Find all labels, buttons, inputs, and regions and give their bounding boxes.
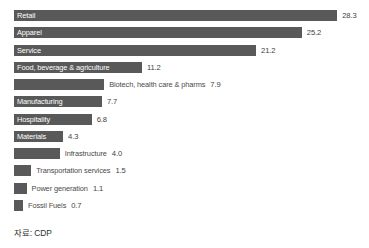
bar-segment: Materials xyxy=(14,131,63,142)
bar-row: Power generation1.1 xyxy=(14,183,103,194)
chart-plot-area: Retail28.3Apparel25.2Service21.2Food, be… xyxy=(0,8,369,215)
bar-segment xyxy=(14,79,104,90)
bar-segment: Retail xyxy=(14,10,337,21)
bar-value-label: 1.5 xyxy=(110,165,125,176)
bar-category-label: Service xyxy=(14,45,41,56)
bar-category-label: Materials xyxy=(14,131,46,142)
bar-segment xyxy=(14,183,27,194)
bar-category-label: Biotech, health care & pharms xyxy=(104,79,205,90)
bar-value-label: 4.0 xyxy=(107,148,122,159)
bar-value-label: 7.7 xyxy=(102,96,117,107)
bar-category-label: Apparel xyxy=(14,27,42,38)
bar-value-label: 7.9 xyxy=(205,79,220,90)
bar-value-label: 28.3 xyxy=(337,10,356,21)
bar-row: Transportation services1.5 xyxy=(14,165,126,176)
bar-category-label: Manufacturing xyxy=(14,96,63,107)
bar-category-label: Hospitality xyxy=(14,114,50,125)
bar-value-label: 4.3 xyxy=(63,131,78,142)
bar-row: Manufacturing7.7 xyxy=(14,96,117,107)
bar-segment xyxy=(14,165,31,176)
bar-chart: Retail28.3Apparel25.2Service21.2Food, be… xyxy=(0,0,369,248)
bar-value-label: 21.2 xyxy=(256,45,275,56)
bar-segment xyxy=(14,200,23,211)
bar-value-label: 6.8 xyxy=(92,114,107,125)
bar-row: Hospitality6.8 xyxy=(14,114,107,125)
bar-row: Fossil Fuels0.7 xyxy=(14,200,82,211)
chart-source-note: 자료: CDP xyxy=(14,226,52,238)
bar-segment: Manufacturing xyxy=(14,96,102,107)
bar-category-label: Food, beverage & agriculture xyxy=(14,62,110,73)
bar-row: Apparel25.2 xyxy=(14,27,321,38)
bar-row: Infrastructure4.0 xyxy=(14,148,122,159)
bar-row: Food, beverage & agriculture11.2 xyxy=(14,62,161,73)
bar-category-label: Retail xyxy=(14,10,35,21)
bar-category-label: Power generation xyxy=(27,183,88,194)
bar-segment xyxy=(14,148,60,159)
bar-row: Service21.2 xyxy=(14,45,275,56)
bar-row: Retail28.3 xyxy=(14,10,357,21)
bar-category-label: Transportation services xyxy=(31,165,110,176)
bar-value-label: 1.1 xyxy=(88,183,103,194)
bar-category-label: Fossil Fuels xyxy=(23,200,66,211)
bar-segment: Apparel xyxy=(14,27,302,38)
bar-segment: Food, beverage & agriculture xyxy=(14,62,142,73)
bar-value-label: 0.7 xyxy=(66,200,81,211)
bar-row: Materials4.3 xyxy=(14,131,78,142)
bar-value-label: 11.2 xyxy=(142,62,161,73)
bar-row: Biotech, health care & pharms7.9 xyxy=(14,79,221,90)
bar-segment: Hospitality xyxy=(14,114,92,125)
bar-segment: Service xyxy=(14,45,256,56)
bar-category-label: Infrastructure xyxy=(60,148,107,159)
bar-value-label: 25.2 xyxy=(302,27,321,38)
